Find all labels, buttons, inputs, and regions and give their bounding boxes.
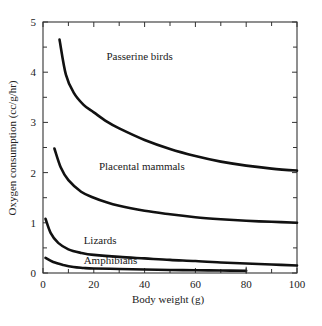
chart-canvas: 020406080100012345 Passerine birdsPlacen… [0,0,322,326]
y-tick-label: 2 [31,167,37,179]
y-tick-label: 3 [31,116,37,128]
curve-passerine-birds [60,40,298,171]
series-labels: Passerine birdsPlacental mammalsLizardsA… [84,50,185,267]
x-tick-label: 80 [241,278,253,290]
x-axis-label: Body weight (g) [132,293,204,306]
label-placental-mammals: Placental mammals [99,160,185,172]
y-tick-label: 5 [31,16,37,28]
label-amphibians: Amphibians [84,254,138,266]
y-tick-label: 1 [31,217,37,229]
x-tick-label: 20 [88,278,100,290]
y-axis-label: Oxygen consumption (cc/g/hr) [6,80,19,215]
x-tick-label: 60 [190,278,202,290]
x-tick-label: 100 [289,278,306,290]
y-tick-label: 4 [31,66,37,78]
y-tick-label: 0 [31,267,37,279]
label-lizards: Lizards [84,234,117,246]
x-tick-label: 40 [139,278,151,290]
label-passerine-birds: Passerine birds [107,50,173,62]
curve-amphibians [46,258,247,271]
x-tick-label: 0 [40,278,46,290]
